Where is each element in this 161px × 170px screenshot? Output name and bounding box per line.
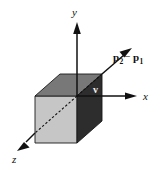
vector-label-group: p 2 − p 1 (113, 50, 144, 66)
z-axis-arrowhead (17, 142, 30, 151)
y-axis-label: y (71, 6, 77, 18)
vector-label-operator: − (124, 50, 130, 62)
z-axis-line (26, 133, 35, 142)
cube-left-face (35, 96, 77, 143)
vector-label-p1-base: p (133, 51, 139, 63)
x-axis-label: x (142, 90, 148, 102)
y-axis-arrowhead (73, 22, 81, 34)
z-axis-label: z (11, 153, 17, 165)
vector-label-p1-subscript: 1 (140, 57, 144, 66)
x-axis-arrowhead (125, 92, 137, 99)
figure-container: v y x z p 2 − p 1 (0, 0, 161, 170)
vector-cube-diagram: v y x z p 2 − p 1 (0, 0, 161, 170)
vector-label-p2-subscript: 2 (120, 57, 124, 66)
vector-short-label: v (93, 84, 98, 95)
vector-label-p2-base: p (113, 51, 119, 63)
